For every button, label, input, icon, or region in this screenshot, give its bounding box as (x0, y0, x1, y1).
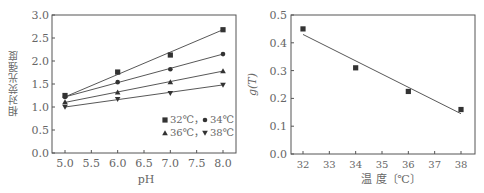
y-tick-label: 0.5 (32, 124, 50, 137)
x-axis-label: pH (138, 173, 155, 186)
legend-label-34: 34℃ (210, 114, 234, 125)
data-point (221, 52, 226, 57)
y-tick-label: 0.0 (270, 148, 288, 161)
fit-line-38℃ (65, 85, 223, 107)
data-point (115, 69, 120, 74)
x-tick-label: 5.0 (56, 157, 74, 170)
data-point (168, 91, 174, 96)
right-chart: 0.00.10.20.30.40.532333435363738温 度〔℃〕g(… (242, 0, 484, 193)
y-tick-label: 0.2 (270, 92, 288, 105)
x-tick-label: 34 (349, 159, 362, 170)
legend-label-38: 38℃ (210, 127, 234, 138)
left-chart: 0.00.51.01.52.02.53.05.05.56.06.57.07.58… (0, 0, 242, 193)
legend-label-36: 36℃， (170, 127, 204, 138)
data-point (220, 68, 226, 73)
x-tick-label: 6.0 (109, 157, 127, 170)
y-tick-label: 0.0 (32, 147, 50, 160)
data-point (300, 26, 305, 31)
data-point (115, 80, 120, 85)
y-tick-label: 1.0 (32, 101, 50, 114)
x-tick-label: 35 (376, 159, 389, 170)
data-point (458, 107, 463, 112)
y-tick-label: 2.5 (32, 32, 50, 45)
x-tick-label: 38 (455, 159, 468, 170)
data-point (63, 95, 68, 100)
data-point (168, 52, 173, 57)
data-point (220, 27, 225, 32)
y-tick-label: 2.0 (32, 55, 50, 68)
right-chart-plot: 0.00.10.20.30.40.532333435363738温 度〔℃〕g(… (242, 0, 484, 193)
y-tick-label: 0.1 (270, 120, 288, 133)
y-tick-label: 0.4 (270, 37, 288, 50)
x-tick-label: 37 (428, 159, 441, 170)
legend-label-32: 32℃， (170, 114, 204, 125)
legend-marker-36 (162, 130, 168, 135)
data-point (168, 67, 173, 72)
legend-marker-34 (203, 118, 208, 123)
plot-frame (291, 15, 475, 154)
y-tick-label: 0.5 (270, 9, 288, 22)
x-tick-label: 5.5 (83, 157, 101, 170)
y-tick-label: 0.3 (270, 65, 288, 78)
data-point (62, 105, 68, 110)
x-tick-label: 6.5 (135, 157, 153, 170)
x-tick-label: 7.5 (188, 157, 206, 170)
x-tick-label: 32 (297, 159, 310, 170)
left-y-axis-label: 相对荧光强度 (6, 50, 21, 116)
left-chart-plot: 0.00.51.01.52.02.53.05.05.56.06.57.07.58… (0, 0, 242, 193)
fit-line (303, 34, 461, 113)
x-tick-label: 36 (402, 159, 415, 170)
y-tick-label: 3.0 (32, 9, 50, 22)
y-tick-label: 1.5 (32, 78, 50, 91)
x-tick-label: 7.0 (162, 157, 180, 170)
data-point (406, 89, 411, 94)
x-tick-label: 8.0 (214, 157, 232, 170)
legend-marker-32 (162, 117, 167, 122)
data-point (353, 65, 358, 70)
x-tick-label: 33 (323, 159, 336, 170)
y-axis-label: g(T) (246, 73, 259, 96)
x-axis-label: 温 度〔℃〕 (361, 172, 421, 186)
